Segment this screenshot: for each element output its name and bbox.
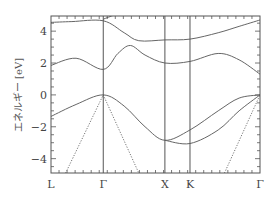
plot-frame — [51, 16, 260, 173]
band-top-1 — [51, 20, 260, 41]
y-axis-title: エネルギー [eV] — [13, 58, 24, 132]
x-tick-label: Γ — [256, 178, 264, 191]
plot-lines — [51, 15, 260, 173]
y-tick-label: 0 — [40, 89, 47, 102]
band-conduction — [51, 45, 260, 74]
band-structure-chart: 420−2−4 LΓXKΓ エネルギー [eV] — [0, 0, 269, 200]
y-tick-label: 2 — [40, 57, 47, 70]
x-tick-labels: LΓXKΓ — [47, 178, 264, 191]
band-dotted-Gamma-X — [103, 95, 139, 173]
band-valence-2 — [165, 95, 260, 144]
x-tick-label: K — [186, 178, 195, 191]
y-tick-labels: 420−2−4 — [31, 25, 47, 166]
y-tick-label: −2 — [31, 121, 47, 134]
x-tick-label: Γ — [99, 178, 107, 191]
y-tick-label: 4 — [40, 25, 47, 38]
axis-ticks — [51, 16, 260, 173]
x-tick-label: L — [47, 178, 55, 191]
y-tick-label: −4 — [31, 153, 47, 166]
band-valence-1 — [51, 95, 260, 140]
x-tick-label: X — [161, 178, 169, 191]
band-dotted-K-Gamma — [224, 95, 260, 173]
